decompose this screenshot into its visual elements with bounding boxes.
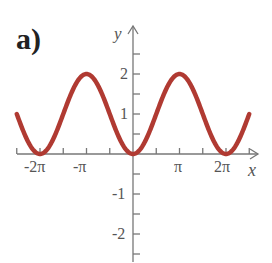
y-axis-label: y: [114, 24, 122, 44]
x-axis-label: x: [248, 160, 256, 181]
x-tick-label: π: [174, 158, 182, 176]
y-tick-label: 2: [120, 65, 128, 83]
y-tick-label: 1: [120, 105, 128, 123]
chart: [0, 0, 272, 263]
y-tick-label: -1: [112, 185, 125, 203]
x-tick-label: -π: [73, 158, 86, 176]
x-tick-label: -2π: [24, 158, 45, 176]
y-tick-label: -2: [112, 225, 125, 243]
x-tick-label: 2π: [214, 158, 230, 176]
